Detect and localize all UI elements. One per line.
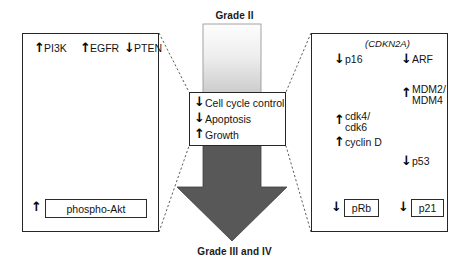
p21-down-arrow-icon: ↓ [398,200,409,213]
connector-left-bottom [159,146,189,232]
cell-cycle-control-down-arrow-icon: ↓ [194,95,205,108]
cdk46-up-arrow-icon: ↑ [334,113,345,126]
connector-right-bottom [286,146,311,232]
node-pten: PTEN [134,43,162,55]
cell-process-panel: ↓ Cell cycle control ↓ Apoptosis ↑ Growt… [189,92,286,146]
progression-arrow-lower [177,143,287,241]
cyclin-d-up-arrow-icon: ↑ [334,135,345,148]
node-phospho-akt: phospho-Akt [45,199,147,218]
arf-down-arrow-icon: ↓ [401,52,412,65]
progression-shaft-upper [203,24,261,96]
prb-down-arrow-icon: ↓ [331,200,342,213]
node-arf: ARF [412,54,433,66]
center-item-cell-cycle-control: Cell cycle control [205,97,284,109]
center-item-apoptosis: Apoptosis [205,113,251,125]
pi3k-pathway-panel: ↑ PI3K ↑ EGFR ↓ PTEN ↑ phospho-Akt [22,33,159,232]
node-p53: p53 [412,156,430,168]
grade-ii-label: Grade II [0,10,469,21]
growth-up-arrow-icon: ↑ [194,127,205,140]
phospho-akt-up-arrow-icon: ↑ [31,200,42,213]
connector-right-top [286,33,311,92]
node-mdm4: MDM4 [412,95,443,107]
node-cyclin-d: cyclin D [345,137,382,149]
apoptosis-down-arrow-icon: ↓ [194,111,205,124]
node-cdk6: cdk6 [345,122,367,134]
figure-canvas: Grade II Grade III and IV ↑ PI3K ↑ EGFR … [0,0,469,266]
p53-down-arrow-icon: ↓ [401,154,412,167]
node-p16: p16 [345,54,363,66]
node-prb: pRb [344,199,379,217]
connector-left-top [159,33,189,92]
grade-iii-iv-label: Grade III and IV [0,246,469,257]
node-pi3k: PI3K [44,43,67,55]
gene-label-cdkn2a: (CDKN2A) [365,38,410,49]
node-p21: p21 [411,199,444,217]
node-egfr: EGFR [90,43,119,55]
center-item-growth: Growth [205,129,239,141]
p16-down-arrow-icon: ↓ [334,52,345,65]
cdkn2a-pathway-panel: (CDKN2A) ↓ p16 ↑ cdk4/ cdk6 ↑ cyclin D ↓… [311,33,448,232]
mdm2-mdm4-up-arrow-icon: ↑ [401,86,412,99]
